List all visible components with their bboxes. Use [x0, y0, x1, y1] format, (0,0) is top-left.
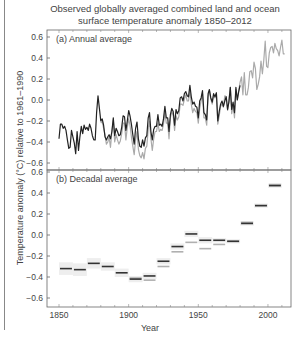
y-tick-label: 0.4	[31, 188, 43, 198]
chart-canvas: 0.60.40.20.0−0.2−0.4−0.6(a) Annual avera…	[0, 0, 307, 346]
y-tick-label: −0.2	[26, 251, 43, 261]
x-axis: 1850190019502000	[50, 310, 278, 320]
series-line-dataset-light	[101, 40, 285, 159]
plot-frame	[47, 30, 291, 170]
y-tick-label: 0.2	[31, 74, 43, 84]
x-tick-label: 2000	[258, 310, 277, 320]
x-tick-label: 1950	[189, 310, 208, 320]
y-tick-label: 0.0	[31, 95, 43, 105]
panel-label: (a) Annual average	[56, 34, 132, 44]
series-line-dataset-dark	[59, 85, 240, 153]
y-tick-label: −0.4	[26, 272, 43, 282]
panel-decadal-average: 0.60.40.20.0−0.2−0.4−0.6(b) Decadal aver…	[26, 167, 291, 307]
y-tick-label: 0.4	[31, 53, 43, 63]
x-tick-label: 1850	[50, 310, 69, 320]
y-tick-label: 0.6	[31, 32, 43, 42]
y-tick-label: −0.4	[26, 137, 43, 147]
y-tick-label: 0.2	[31, 209, 43, 219]
plot-frame	[47, 170, 291, 307]
x-tick-label: 1900	[119, 310, 138, 320]
y-tick-label: 0.6	[31, 167, 43, 177]
y-tick-label: −0.2	[26, 116, 43, 126]
y-tick-label: −0.6	[26, 293, 43, 303]
y-tick-label: 0.0	[31, 230, 43, 240]
panel-annual-average: 0.60.40.20.0−0.2−0.4−0.6(a) Annual avera…	[26, 30, 291, 170]
panel-label: (b) Decadal average	[56, 174, 138, 184]
